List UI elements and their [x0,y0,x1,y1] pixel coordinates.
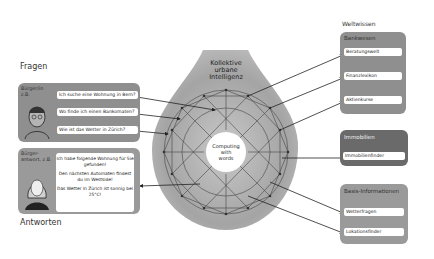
question-chip-1: Ich suche eine Wohnung in Bern? [57,91,138,99]
knowledge-panel-banking: Bankwesen Beratungswelt Finanzlexikon Ak… [340,32,406,114]
core-line: words [206,155,246,161]
computing-with-words-label: Computing with words [206,143,246,161]
answers-heading: Antworten [20,218,62,227]
knowledge-item-beratungswelt: Beratungswelt [344,48,402,56]
knowledge-panel-basic-info: Basis-Informationen Wetterfragen Lokatio… [340,184,408,244]
citizen-answer-panel: Bürger- antwort, z.B. Ich habe folgende … [18,148,140,214]
knowledge-item-aktienkurse: Aktienkurse [344,96,402,104]
answer-tag: Bürger- antwort, z.B. [21,151,51,163]
knowledge-item-immobilienfinder: Immobilienfinder [343,152,405,160]
knowledge-panel-real-estate: Immobilien Immobilienfinder [340,130,408,166]
title-line: Intelligenz [196,74,256,81]
collective-intelligence-title: Kollektive urbane Intelligenz [196,60,256,81]
citizen-question-panel: Bürger/in z.B. Ich suche eine Wohnung in… [18,83,140,142]
knowledge-item-wetterfragen: Wetterfragen [344,208,404,216]
answer-text-3: Das Wetter in Zürich ist sonnig bei 25°C… [56,186,134,197]
knowledge-item-finanzlexikon: Finanzlexikon [344,72,402,80]
question-chip-2: Wo finde ich einen Bankomaten? [57,108,138,116]
panel-title: Bankwesen [344,35,375,41]
answer-text-2: Den nächsten Automaten findest du im Wes… [56,171,134,182]
answer-card: Ich habe folgende Wohnung für Sie gefund… [56,153,134,212]
tag-line: z.B. [21,92,43,98]
world-knowledge-heading: Weltwissen [342,20,376,27]
knowledge-item-lokationsfinder: Lokationsfinder [344,228,404,236]
panel-title: Basis-Informationen [344,188,399,194]
answer-text-1: Ich habe folgende Wohnung für Sie gefund… [56,156,134,167]
tag-line: antwort, z.B. [21,157,51,163]
panel-title: Immobilien [344,134,375,140]
question-chip-3: Wie ist das Wetter in Zürich? [57,126,138,134]
male-citizen-avatar-icon [22,101,52,139]
questions-heading: Fragen [20,62,47,71]
female-citizen-avatar-icon [22,170,52,210]
citizen-tag: Bürger/in z.B. [21,86,43,98]
